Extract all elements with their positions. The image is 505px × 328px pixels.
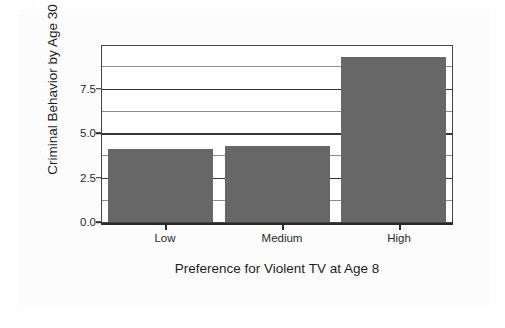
bar-high[interactable] — [341, 57, 446, 222]
x-tick-label-medium: Medium — [237, 232, 327, 244]
figure-canvas: Criminal Behavior by Age 30 0.0 2.5 5.0 … — [0, 0, 505, 328]
x-tick-mark-high — [399, 223, 401, 230]
y-tick-label-2: 5.0 — [62, 127, 96, 139]
bar-series — [102, 46, 452, 222]
y-axis-title: Criminal Behavior by Age 30 — [45, 0, 60, 190]
x-tick-label-high: High — [354, 232, 444, 244]
plot-area — [101, 45, 453, 223]
bar-medium[interactable] — [225, 146, 330, 222]
x-axis-title: Preference for Violent TV at Age 8 — [101, 261, 453, 276]
y-tick-label-0: 0.0 — [62, 216, 96, 228]
x-tick-mark-low — [165, 223, 167, 230]
y-tick-label-1: 2.5 — [62, 172, 96, 184]
x-tick-label-low: Low — [120, 232, 210, 244]
y-axis-tick-labels: 0.0 2.5 5.0 7.5 — [62, 0, 96, 328]
y-tick-label-3: 7.5 — [62, 83, 96, 95]
x-tick-mark-medium — [282, 223, 284, 230]
bar-low[interactable] — [108, 149, 213, 222]
